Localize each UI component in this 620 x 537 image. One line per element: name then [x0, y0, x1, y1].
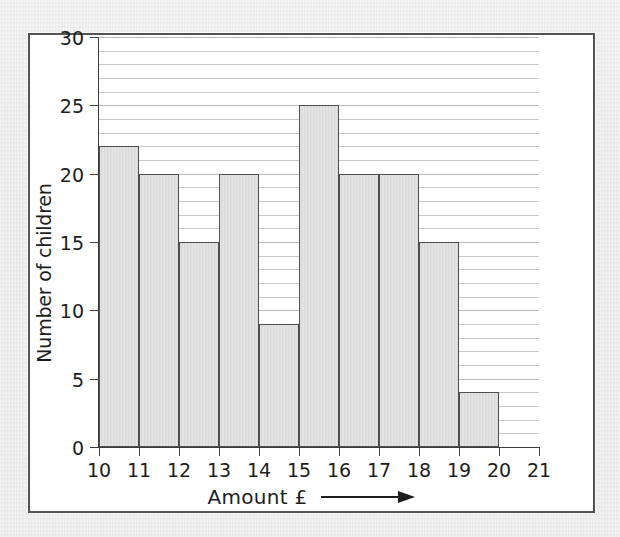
x-axis-tick: [499, 447, 500, 456]
y-axis-tick-label: 25: [60, 95, 84, 117]
bar: [299, 105, 339, 447]
x-axis-tick: [419, 447, 420, 456]
y-axis-tick-label: 10: [60, 300, 84, 322]
x-axis-tick: [219, 447, 220, 456]
y-axis-tick: 5: [90, 379, 99, 380]
x-axis-tick: [459, 447, 460, 456]
figure-frame: Number of children Amount £ 051015202530…: [28, 33, 595, 513]
x-axis-tick-label: 14: [247, 459, 271, 481]
x-axis-line: [98, 447, 539, 448]
x-axis-tick-label: 15: [287, 459, 311, 481]
x-axis-title-group: Amount £: [30, 485, 593, 509]
gridline: [99, 92, 539, 93]
x-axis-tick: [179, 447, 180, 456]
y-axis-title: Number of children: [33, 183, 55, 362]
x-axis-tick-label: 16: [327, 459, 351, 481]
plot-stage: Number of children Amount £ 051015202530…: [30, 35, 593, 511]
y-axis-tick: 10: [90, 310, 99, 311]
x-axis-tick-label: 13: [207, 459, 231, 481]
y-axis-tick-label: 0: [72, 437, 84, 459]
gridline: [99, 51, 539, 52]
x-axis-title: Amount £: [207, 485, 307, 509]
y-axis-tick-label: 30: [60, 27, 84, 49]
x-axis-tick: [99, 447, 100, 456]
y-axis-tick-label: 15: [60, 232, 84, 254]
gridline: [99, 78, 539, 79]
bar: [379, 174, 419, 447]
bar: [459, 392, 499, 447]
y-axis-tick-label: 20: [60, 164, 84, 186]
bar: [139, 174, 179, 447]
x-axis-tick: [139, 447, 140, 456]
y-axis-tick-label: 5: [72, 369, 84, 391]
y-axis-tick: 20: [90, 174, 99, 175]
x-axis-tick-label: 20: [487, 459, 511, 481]
bar: [219, 174, 259, 447]
y-axis-tick: 30: [90, 37, 99, 38]
x-axis-tick: [339, 447, 340, 456]
x-axis-tick-label: 12: [167, 459, 191, 481]
x-axis-tick-label: 17: [367, 459, 391, 481]
bar: [259, 324, 299, 447]
x-axis-tick-label: 10: [87, 459, 111, 481]
right-arrow-icon: [320, 489, 416, 505]
y-axis-tick: 25: [90, 105, 99, 106]
bar: [99, 146, 139, 447]
x-axis-tick-label: 18: [407, 459, 431, 481]
bar: [179, 242, 219, 447]
gridline: [99, 37, 539, 38]
x-axis-tick-label: 21: [527, 459, 551, 481]
x-axis-tick: [539, 447, 540, 456]
x-axis-tick-label: 19: [447, 459, 471, 481]
x-axis-tick: [299, 447, 300, 456]
plot-area: [99, 37, 539, 447]
x-axis-tick: [379, 447, 380, 456]
bar: [339, 174, 379, 447]
clipped-caption-text: ' ': [0, 0, 620, 5]
y-axis-tick: 15: [90, 242, 99, 243]
bar: [419, 242, 459, 447]
x-axis-tick: [259, 447, 260, 456]
y-axis-tick: 0: [90, 447, 99, 448]
x-axis-tick-label: 11: [127, 459, 151, 481]
gridline: [99, 64, 539, 65]
